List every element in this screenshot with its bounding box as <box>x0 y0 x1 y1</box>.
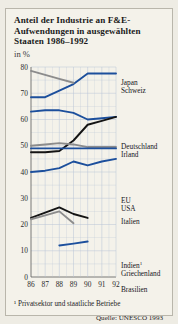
svg-text:92: 92 <box>112 280 120 289</box>
svg-text:91: 91 <box>98 280 106 289</box>
svg-text:50: 50 <box>21 141 29 150</box>
chart-plot-area: 01020304050607080 86878889909192 JapanSc… <box>13 61 168 293</box>
legend-label-brasilien: Brasilien <box>121 285 148 293</box>
legend-label-irland: Irland <box>121 150 139 159</box>
legend-label-schweiz: Schweiz <box>121 86 146 95</box>
svg-text:89: 89 <box>70 280 78 289</box>
page-title: Anteil der Industrie an F&E-Aufwendungen… <box>14 15 166 47</box>
chart-gridlines <box>31 67 116 277</box>
chart-legend: JapanSchweizDeutschlandIrlandEUUSAItalie… <box>121 78 161 293</box>
legend-label-usa: USA <box>121 204 136 213</box>
svg-text:70: 70 <box>21 89 29 98</box>
svg-text:86: 86 <box>27 280 35 289</box>
legend-label-italien: Italien <box>121 217 140 226</box>
svg-text:90: 90 <box>84 280 92 289</box>
svg-text:20: 20 <box>21 220 29 229</box>
svg-text:30: 30 <box>21 194 29 203</box>
source-note: Quelle: UNESCO 1993 <box>96 314 163 322</box>
chart-subtitle: in % <box>14 49 30 59</box>
svg-text:88: 88 <box>56 280 64 289</box>
svg-text:10: 10 <box>21 246 29 255</box>
x-axis-labels: 86878889909192 <box>27 280 120 289</box>
footnote: ¹ Privatsektor und staatliche Betriebe <box>14 300 120 308</box>
svg-text:87: 87 <box>41 280 49 289</box>
svg-text:60: 60 <box>21 115 29 124</box>
svg-text:80: 80 <box>21 63 29 72</box>
legend-label-griechenland: Griechenland <box>121 269 161 278</box>
y-axis-labels: 01020304050607080 <box>21 63 29 282</box>
line-chart: 01020304050607080 86878889909192 JapanSc… <box>13 61 168 293</box>
figure-frame: Anteil der Industrie an F&E-Aufwendungen… <box>0 0 178 324</box>
figure-card: Anteil der Industrie an F&E-Aufwendungen… <box>5 8 173 316</box>
svg-text:40: 40 <box>21 168 29 177</box>
